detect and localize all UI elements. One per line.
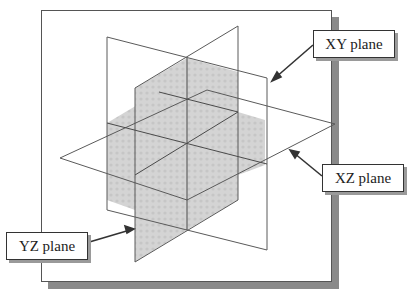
xy-arrow	[275, 45, 313, 78]
xz-arrow	[294, 153, 322, 176]
xy-plane-label: XY plane	[313, 30, 395, 58]
xz-plane-label: XZ plane	[322, 164, 404, 192]
yz-arrow	[86, 230, 130, 243]
yz-plane-label: YZ plane	[6, 232, 88, 260]
